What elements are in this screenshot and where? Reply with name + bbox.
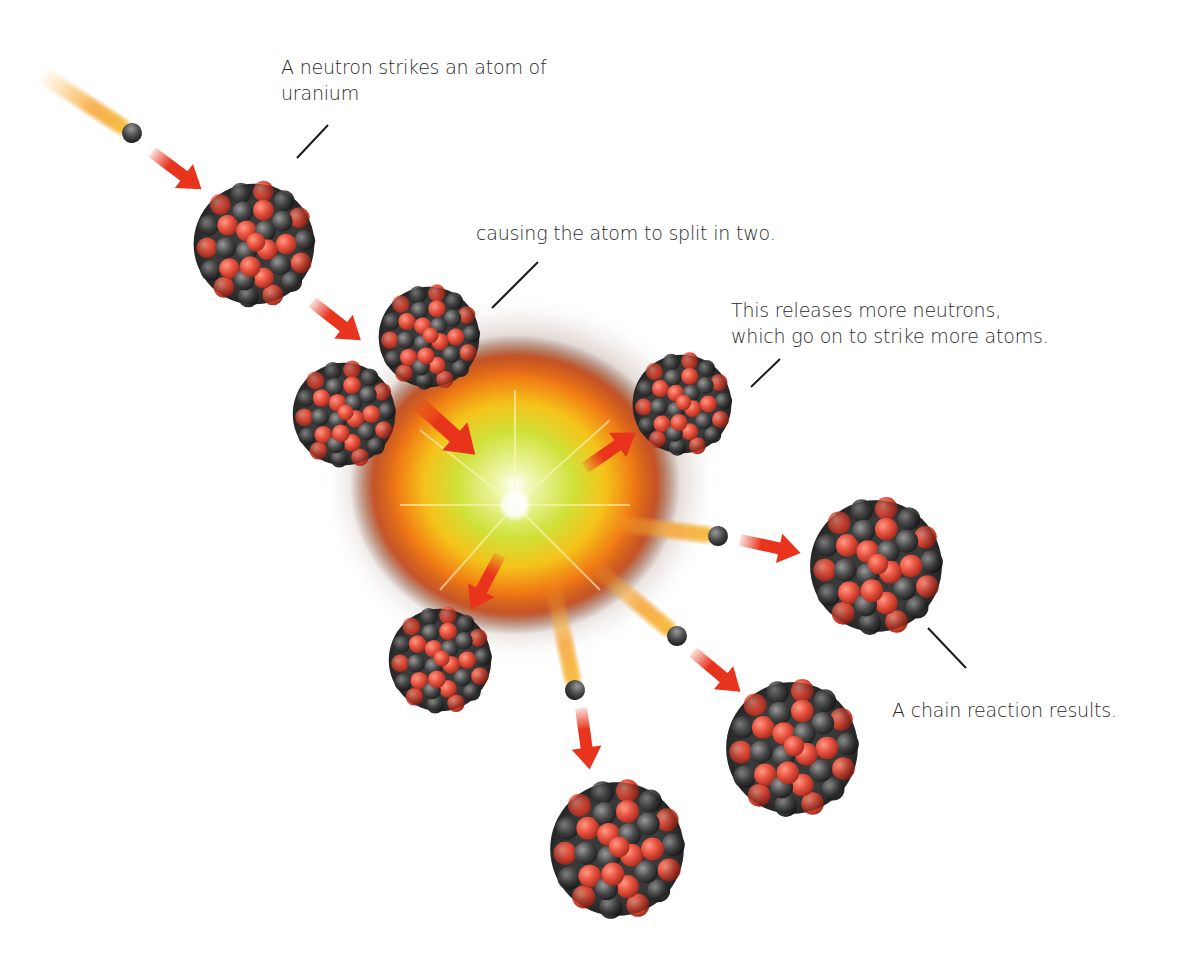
label-releases-neutrons: This releases more neutrons, which go on… bbox=[731, 297, 1049, 349]
leader-line-releases-neutrons bbox=[751, 359, 780, 387]
atom-lower-right bbox=[726, 679, 859, 817]
label-atom-splits: causing the atom to split in two. bbox=[476, 220, 775, 246]
label-line: A neutron strikes an atom of bbox=[281, 54, 546, 80]
label-line: which go on to strike more atoms. bbox=[731, 323, 1049, 349]
uranium-atom-target bbox=[194, 181, 316, 307]
label-line: A chain reaction results. bbox=[892, 697, 1117, 723]
label-line: causing the atom to split in two. bbox=[476, 220, 775, 246]
arrow-incoming bbox=[143, 140, 211, 201]
leader-line-neutron-strikes bbox=[297, 125, 328, 158]
leader-line-chain-reaction bbox=[928, 628, 966, 668]
atom-bottom bbox=[550, 779, 685, 919]
arrow-bottom bbox=[566, 706, 604, 772]
arrow-right bbox=[737, 525, 804, 567]
leader-line-atom-splits bbox=[492, 262, 538, 308]
atom-right bbox=[810, 497, 943, 635]
label-line: uranium bbox=[281, 80, 546, 106]
arrow-to-split bbox=[303, 290, 370, 352]
diagram-canvas bbox=[0, 0, 1186, 969]
label-neutron-strikes: A neutron strikes an atom of uranium bbox=[281, 54, 546, 106]
arrow-lower-right bbox=[683, 641, 750, 704]
label-chain-reaction: A chain reaction results. bbox=[892, 697, 1117, 723]
incoming-neutron bbox=[34, 65, 146, 147]
label-line: This releases more neutrons, bbox=[731, 297, 1049, 323]
fission-diagram: A neutron strikes an atom of uranium cau… bbox=[0, 0, 1186, 969]
